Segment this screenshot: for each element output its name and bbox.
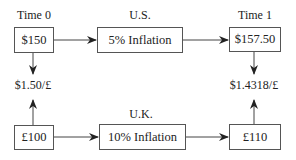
rate0-label: $1.50/£ — [3, 78, 63, 92]
uk-inflation-value: 10% Inflation — [108, 130, 177, 145]
uk-end-value: £110 — [243, 130, 268, 145]
us-start-value: $150 — [22, 33, 47, 48]
us-end-value: $157.50 — [235, 32, 276, 47]
uk-start-value: £100 — [22, 130, 47, 145]
us-end-box: $157.50 — [229, 27, 281, 52]
uk-end-box: £110 — [229, 124, 281, 150]
time1-label: Time 1 — [226, 8, 284, 22]
uk-start-box: £100 — [14, 125, 54, 150]
rate1-label: $1.4318/£ — [218, 78, 290, 92]
time0-label: Time 0 — [8, 8, 60, 22]
uk-inflation-box: 10% Inflation — [99, 124, 186, 150]
uk-label: U.K. — [121, 107, 161, 121]
us-inflation-value: 5% Inflation — [109, 33, 172, 48]
us-inflation-box: 5% Inflation — [97, 27, 183, 53]
us-start-box: $150 — [14, 27, 54, 53]
us-label: U.S. — [120, 8, 160, 22]
